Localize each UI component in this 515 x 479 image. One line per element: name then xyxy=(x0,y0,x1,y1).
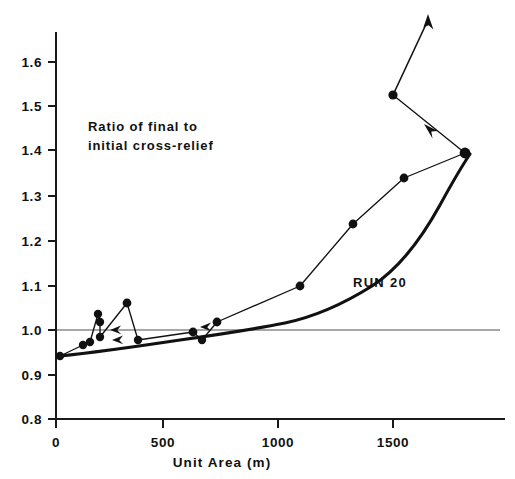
y-tick-label-1-4: 1.4 xyxy=(21,143,42,158)
data-point-marker xyxy=(96,318,104,326)
y-axis-caption-line2: initial cross-relief xyxy=(88,138,214,153)
data-point-marker xyxy=(296,282,305,291)
y-tick-label-1-3: 1.3 xyxy=(21,189,42,204)
x-tick-label-500: 500 xyxy=(151,435,175,450)
data-point-marker xyxy=(388,90,397,99)
data-point-marker xyxy=(400,174,409,183)
data-point-marker xyxy=(349,220,358,229)
x-axis-title: Unit Area (m) xyxy=(173,455,272,470)
y-tick-label-1-1: 1.1 xyxy=(21,279,42,294)
y-tick-label-0-8: 0.8 xyxy=(21,412,42,427)
x-tick-label-1500: 1500 xyxy=(377,435,409,450)
x-tick-label-0: 0 xyxy=(52,435,60,450)
run-label: RUN 20 xyxy=(353,275,407,290)
data-point-marker xyxy=(56,352,64,360)
data-point-marker xyxy=(123,299,132,308)
y-tick-label-1-2: 1.2 xyxy=(21,234,42,249)
data-point-marker xyxy=(460,148,471,159)
x-tick-label-1000: 1000 xyxy=(262,435,294,450)
data-point-marker xyxy=(86,338,94,346)
data-point-marker xyxy=(198,336,206,344)
y-axis-caption-line1: Ratio of final to xyxy=(88,119,198,134)
y-tick-label-1-6: 1.6 xyxy=(21,55,42,70)
chart-background xyxy=(0,0,515,479)
y-tick-label-1-0: 1.0 xyxy=(21,323,42,338)
data-point-marker xyxy=(134,336,142,344)
data-point-marker xyxy=(94,310,102,318)
chart-svg: 1.6 1.5 1.4 1.3 1.2 1.1 1.0 0.9 0.8 0 50… xyxy=(0,0,515,479)
y-tick-label-1-5: 1.5 xyxy=(21,99,42,114)
y-tick-label-0-9: 0.9 xyxy=(21,368,42,383)
data-point-marker xyxy=(213,318,222,327)
chart-container: 1.6 1.5 1.4 1.3 1.2 1.1 1.0 0.9 0.8 0 50… xyxy=(0,0,515,479)
data-point-marker xyxy=(96,333,104,341)
data-point-marker xyxy=(189,328,198,337)
